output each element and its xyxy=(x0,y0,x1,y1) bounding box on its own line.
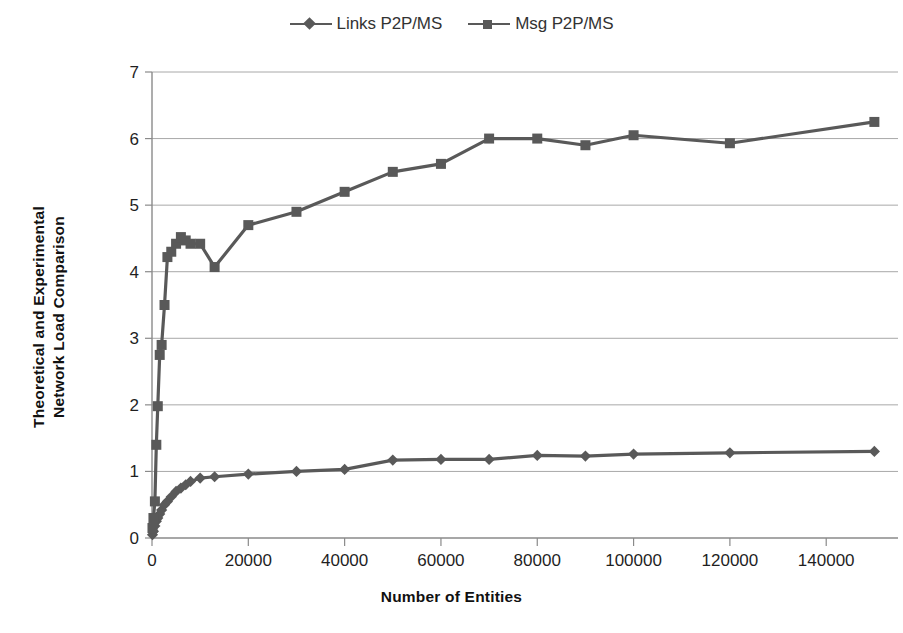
y-tick-label: 7 xyxy=(130,63,139,82)
data-point-marker xyxy=(150,496,160,506)
y-tick-label: 6 xyxy=(130,130,139,149)
data-point-marker xyxy=(147,523,157,533)
data-point-marker xyxy=(629,130,639,140)
series-msg xyxy=(147,117,879,533)
y-tick-label: 4 xyxy=(130,263,139,282)
data-point-marker xyxy=(724,447,735,458)
data-point-marker xyxy=(388,167,398,177)
x-tick-label: 140000 xyxy=(798,551,855,570)
x-tick-labels: 020000400006000080000100000120000140000 xyxy=(147,551,854,570)
data-point-marker xyxy=(532,450,543,461)
y-tick-label: 0 xyxy=(130,529,139,548)
chart-container: Links P2P/MS Msg P2P/MS Theoretical and … xyxy=(0,0,903,633)
data-point-marker xyxy=(580,140,590,150)
data-point-marker xyxy=(155,350,165,360)
data-point-marker xyxy=(387,455,398,466)
data-point-marker xyxy=(435,454,446,465)
data-point-marker xyxy=(484,454,495,465)
plot-svg: 01234567 0200004000060000800001000001200… xyxy=(0,0,903,633)
x-tick-label: 40000 xyxy=(321,551,368,570)
x-tick-label: 0 xyxy=(147,551,156,570)
data-point-marker xyxy=(628,449,639,460)
data-point-marker xyxy=(195,472,206,483)
data-series xyxy=(147,117,880,540)
x-tick-label: 60000 xyxy=(417,551,464,570)
x-tick-label: 80000 xyxy=(514,551,561,570)
data-point-marker xyxy=(869,117,879,127)
x-tick-marks xyxy=(152,538,826,546)
data-point-marker xyxy=(160,300,170,310)
y-tick-labels: 01234567 xyxy=(130,63,139,548)
y-tick-label: 3 xyxy=(130,329,139,348)
series-line xyxy=(152,451,874,534)
data-point-marker xyxy=(151,440,161,450)
data-point-marker xyxy=(580,451,591,462)
y-tick-label: 1 xyxy=(130,462,139,481)
data-point-marker xyxy=(186,239,196,249)
x-tick-label: 100000 xyxy=(605,551,662,570)
data-point-marker xyxy=(243,468,254,479)
data-point-marker xyxy=(209,471,220,482)
data-point-marker xyxy=(148,513,158,523)
data-point-marker xyxy=(869,446,880,457)
x-tick-label: 20000 xyxy=(225,551,272,570)
data-point-marker xyxy=(291,466,302,477)
plot-area: 01234567 0200004000060000800001000001200… xyxy=(0,0,903,633)
data-point-marker xyxy=(210,262,220,272)
data-point-marker xyxy=(195,239,205,249)
data-point-marker xyxy=(291,207,301,217)
x-tick-label: 120000 xyxy=(702,551,759,570)
data-point-marker xyxy=(339,464,350,475)
data-point-marker xyxy=(340,187,350,197)
data-point-marker xyxy=(532,134,542,144)
series-links xyxy=(147,446,880,540)
data-point-marker xyxy=(157,340,167,350)
gridlines xyxy=(145,72,898,538)
data-point-marker xyxy=(436,159,446,169)
data-point-marker xyxy=(484,134,494,144)
data-point-marker xyxy=(153,401,163,411)
data-point-marker xyxy=(725,138,735,148)
series-line xyxy=(152,122,874,528)
y-tick-label: 5 xyxy=(130,196,139,215)
data-point-marker xyxy=(243,220,253,230)
y-tick-label: 2 xyxy=(130,396,139,415)
